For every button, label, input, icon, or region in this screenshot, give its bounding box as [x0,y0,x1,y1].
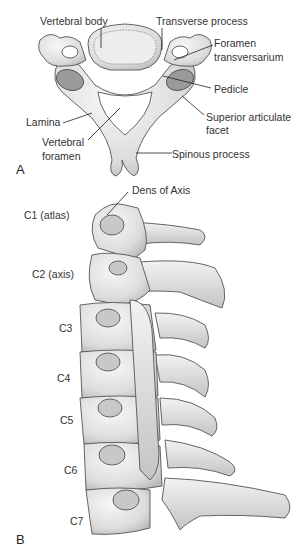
label-transverse-process: Transverse process [156,15,248,27]
label-lamina: Lamina [26,116,60,128]
label-superior-articulate-facet-line2: facet [206,124,229,136]
label-vertebral-body: Vertebral body [40,15,108,27]
label-pedicle: Pedicle [214,83,248,95]
label-foramen-transversarium-line1: Foramen [214,37,256,49]
label-vertebral-foramen-line1: Vertebral [42,136,84,148]
label-dens-of-axis: Dens of Axis [132,184,190,196]
label-foramen-transversarium-line2: transversarium [214,51,283,63]
label-c7: C7 [70,515,83,527]
panel-letter-b: B [16,532,25,547]
cervical-spine-lateral-view [80,204,290,535]
label-c3: C3 [59,322,72,334]
label-c5: C5 [60,414,73,426]
label-c1-atlas: C1 (atlas) [24,209,70,221]
panel-letter-a: A [16,162,25,177]
label-spinous-process: Spinous process [172,148,250,160]
label-superior-articulate-facet-line1: Superior articulate [206,111,291,123]
label-c6: C6 [64,464,77,476]
label-vertebral-foramen-line2: foramen [42,150,81,162]
label-c2-axis: C2 (axis) [32,268,74,280]
label-c4: C4 [57,372,70,384]
